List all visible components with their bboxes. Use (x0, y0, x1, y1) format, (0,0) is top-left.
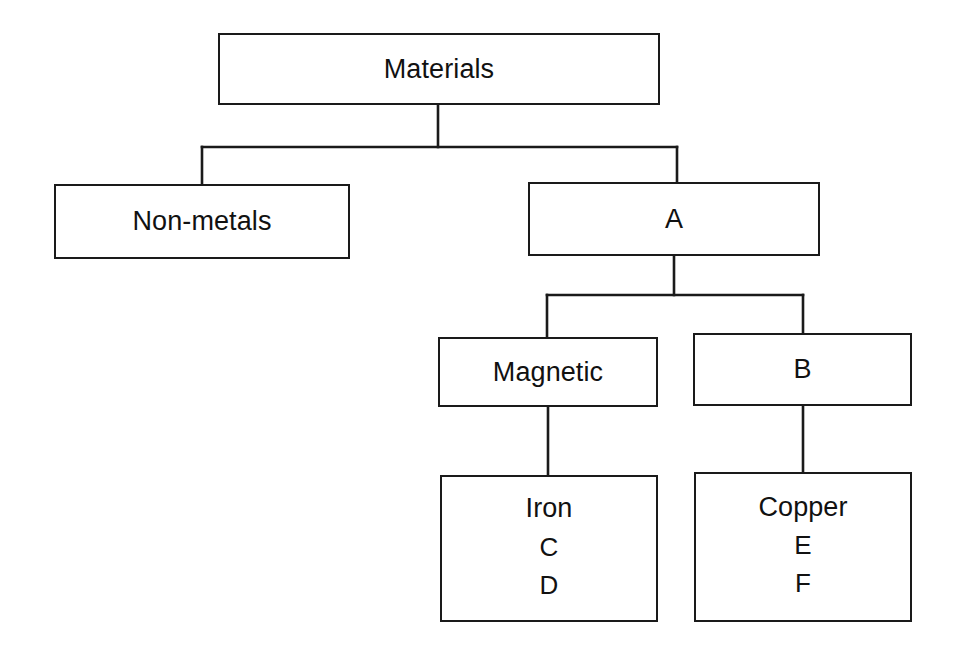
node-materials-label: Materials (384, 54, 494, 84)
node-non-metals-label: Non-metals (132, 206, 271, 236)
node-iron-line3: D (540, 571, 559, 600)
node-non-metals[interactable]: Non-metals (54, 184, 350, 259)
tree-diagram-canvas: Materials Non-metals A Magnetic B Iron C… (0, 0, 965, 659)
node-materials[interactable]: Materials (218, 33, 660, 105)
node-iron-line2: C (540, 533, 559, 562)
node-a-label: A (665, 204, 683, 234)
node-b[interactable]: B (693, 333, 912, 406)
node-copper[interactable]: Copper E F (694, 472, 912, 622)
node-magnetic-label: Magnetic (493, 357, 603, 387)
node-a[interactable]: A (528, 182, 820, 256)
node-iron-label: Iron (526, 493, 573, 523)
node-copper-line3: F (795, 569, 811, 598)
node-copper-line2: E (794, 531, 811, 560)
node-magnetic[interactable]: Magnetic (438, 337, 658, 407)
node-copper-label: Copper (758, 492, 847, 522)
node-iron[interactable]: Iron C D (440, 475, 658, 622)
node-b-label: B (793, 354, 811, 384)
